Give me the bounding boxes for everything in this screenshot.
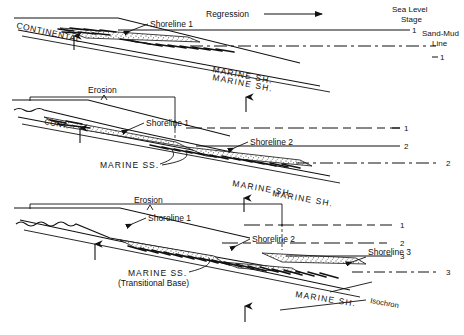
panel2-erosion-label: Erosion xyxy=(88,85,117,95)
panel2-shoreline2-label: Shoreline 2 xyxy=(250,137,293,147)
panel1-stage-number: 1 xyxy=(412,26,417,35)
panel1-shoreline1-label: Shoreline 1 xyxy=(150,19,193,29)
sand-mud-label-line2: Line xyxy=(432,39,448,48)
panel3-sandmud-number-3: 3 xyxy=(446,268,451,277)
panel3-shoreline2-label: Shoreline 2 xyxy=(252,234,295,244)
panel2-stage-number-2: 2 xyxy=(404,142,409,151)
panel3-marine-ss-label-line2: (Transitional Base) xyxy=(118,278,189,288)
panel2-sandmud-number-2: 2 xyxy=(446,159,451,168)
panel3-marine-ss-label-line1: MARINE SS. xyxy=(128,268,187,278)
sand-mud-label-line1: Sand-Mud xyxy=(422,29,459,38)
panel3-erosion-label: Erosion xyxy=(134,195,163,205)
panel3-shoreline3-label: Shoreline 3 xyxy=(368,247,411,257)
panel2-marine-ss-label: MARINE SS. xyxy=(100,160,159,170)
panel2-shoreline1-label: Shoreline 1 xyxy=(146,118,189,128)
cross-section-svg: Regression CONTINENTAL Shoreline 1 MARIN… xyxy=(0,0,464,335)
sea-level-stage-label-line2: Stage xyxy=(401,15,422,24)
figure-canvas: Regression CONTINENTAL Shoreline 1 MARIN… xyxy=(0,0,464,335)
panel1-sandmud-number: 1 xyxy=(440,53,445,62)
panel2-stage-number-1: 1 xyxy=(404,124,409,133)
panel3-shoreline1-label: Shoreline 1 xyxy=(148,213,191,223)
sea-level-stage-label-line1: Sea Level xyxy=(392,5,428,14)
regression-label: Regression xyxy=(206,9,249,19)
background xyxy=(0,0,464,335)
panel3-stage-number-1: 1 xyxy=(400,221,405,230)
